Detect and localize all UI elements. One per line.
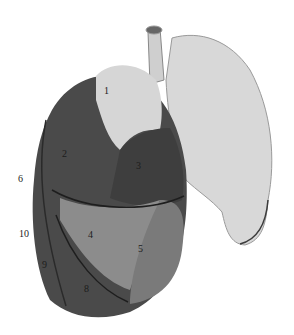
label-9: 9 [42,260,47,270]
label-8: 8 [84,284,89,294]
label-1: 1 [104,86,109,96]
label-3: 3 [136,161,141,171]
label-4: 4 [88,230,93,240]
label-5: 5 [138,244,143,254]
lung-drawing [0,0,294,335]
label-6: 6 [18,174,23,184]
label-2: 2 [62,149,67,159]
label-10: 10 [19,229,29,239]
lung-illustration: 1 2 3 4 5 6 8 9 10 [0,0,294,335]
